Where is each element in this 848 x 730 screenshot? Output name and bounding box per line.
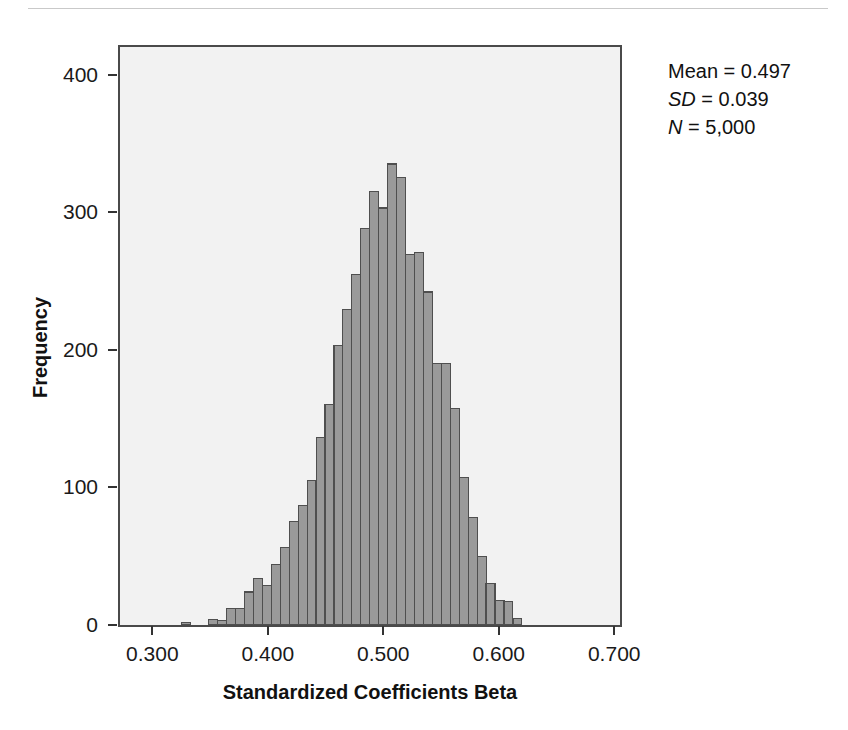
histogram-bar (388, 164, 397, 625)
stat-mean-label: Mean (668, 60, 718, 82)
stat-mean: Mean = 0.497 (668, 57, 791, 85)
y-tick-mark (108, 349, 117, 351)
x-tick-label: 0.300 (92, 643, 212, 664)
x-tick-label: 0.500 (323, 643, 443, 664)
stat-sd-label: SD (668, 88, 696, 110)
histogram-bar (406, 255, 415, 625)
histogram-bar (253, 578, 262, 625)
histogram-bar (423, 292, 432, 625)
histogram-bar (218, 621, 227, 625)
y-tick-label: 100 (0, 476, 98, 497)
histogram-bar (182, 622, 191, 625)
histogram-figure: 01002003004000.3000.4000.5000.6000.700 S… (0, 0, 848, 730)
histogram-bar (289, 522, 298, 625)
y-axis-title: Frequency (29, 248, 52, 448)
page-top-rule (28, 8, 828, 9)
histogram-bars (120, 47, 620, 625)
histogram-bar (298, 505, 307, 625)
histogram-bar (495, 600, 504, 625)
histogram-bar (441, 364, 450, 625)
y-tick-mark (108, 74, 117, 76)
histogram-bar (486, 584, 495, 625)
x-tick-mark (498, 626, 500, 635)
histogram-bar (343, 310, 352, 625)
stat-sd-value: 0.039 (719, 88, 769, 110)
stat-mean-eq: = (724, 60, 736, 82)
histogram-bar (325, 405, 334, 625)
x-tick-label: 0.600 (439, 643, 559, 664)
x-tick-mark (151, 626, 153, 635)
histogram-bar (504, 602, 513, 625)
histogram-bar (397, 178, 406, 625)
x-tick-mark (613, 626, 615, 635)
plot-area (120, 47, 620, 625)
histogram-bar (459, 478, 468, 625)
histogram-bar (379, 208, 388, 625)
histogram-bar (513, 618, 522, 625)
stat-n-value: 5,000 (705, 116, 755, 138)
histogram-bar (262, 585, 271, 625)
stat-n-label: N (668, 116, 682, 138)
histogram-bar (307, 481, 316, 626)
histogram-bar (361, 229, 370, 625)
histogram-bar (432, 364, 441, 625)
histogram-bar (244, 592, 253, 625)
histogram-bar (468, 518, 477, 625)
y-tick-label: 400 (0, 64, 98, 85)
y-tick-mark (108, 486, 117, 488)
histogram-bar (352, 274, 361, 625)
histogram-bar (235, 608, 244, 625)
histogram-bar (227, 608, 236, 625)
histogram-bar (370, 192, 379, 626)
stat-sd-eq: = (701, 88, 713, 110)
y-tick-mark (108, 211, 117, 213)
stat-n-eq: = (688, 116, 700, 138)
histogram-bar (271, 564, 280, 625)
x-tick-label: 0.700 (554, 643, 674, 664)
histogram-bar (316, 438, 325, 625)
x-tick-label: 0.400 (208, 643, 328, 664)
plot-frame (118, 45, 622, 627)
histogram-bar (334, 346, 343, 625)
x-tick-mark (267, 626, 269, 635)
stat-mean-value: 0.497 (741, 60, 791, 82)
y-tick-mark (108, 624, 117, 626)
x-axis-title: Standardized Coefficients Beta (118, 681, 622, 704)
histogram-bar (209, 620, 218, 626)
x-tick-mark (382, 626, 384, 635)
histogram-bar (450, 409, 459, 625)
histogram-bar (280, 548, 289, 625)
y-tick-label: 300 (0, 201, 98, 222)
histogram-bar (414, 252, 423, 625)
stat-sd: SD = 0.039 (668, 85, 791, 113)
statistics-annotation: Mean = 0.497 SD = 0.039 N = 5,000 (668, 57, 791, 141)
stat-n: N = 5,000 (668, 113, 791, 141)
histogram-bar (477, 556, 486, 625)
y-tick-label: 0 (0, 614, 98, 635)
